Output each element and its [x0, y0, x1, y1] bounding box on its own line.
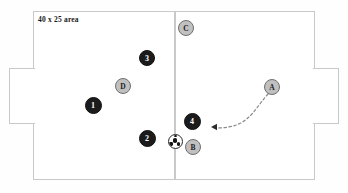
player-4[interactable]: 4	[184, 113, 201, 130]
player-b[interactable]: B	[185, 139, 201, 155]
goal-right	[313, 68, 339, 124]
center-line	[174, 11, 176, 180]
goal-left	[9, 68, 35, 124]
player-a[interactable]: A	[264, 79, 280, 95]
ball-patch	[177, 142, 181, 146]
ball-patch	[174, 135, 177, 137]
player-c[interactable]: C	[178, 20, 194, 36]
tactics-diagram: 40 x 25 area 1234ABCD	[0, 0, 348, 193]
player-2[interactable]: 2	[139, 130, 156, 147]
area-size-label: 40 x 25 area	[38, 15, 79, 24]
player-d[interactable]: D	[115, 78, 131, 94]
soccer-ball[interactable]	[168, 134, 183, 149]
player-3[interactable]: 3	[139, 50, 155, 66]
player-1[interactable]: 1	[85, 97, 102, 114]
ball-patch	[169, 142, 172, 146]
